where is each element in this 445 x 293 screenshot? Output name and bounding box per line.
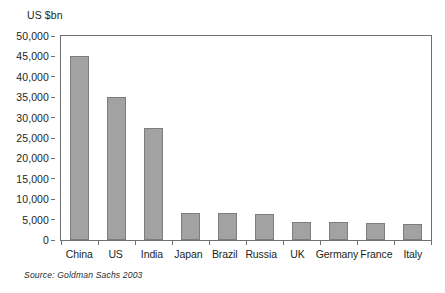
bar-france[interactable] <box>366 223 385 240</box>
y-axis-tick: 40,000 <box>0 71 60 83</box>
y-axis-tick-mark <box>51 36 55 37</box>
x-axis-label-china: China <box>61 247 97 263</box>
y-axis-tick-label: 0 <box>43 234 49 246</box>
bar-russia[interactable] <box>255 214 274 240</box>
y-axis-tick: 35,000 <box>0 91 60 103</box>
y-axis-tick: 50,000 <box>0 30 60 42</box>
y-axis-tick-mark <box>51 138 55 139</box>
x-axis-label-france: France <box>358 247 394 263</box>
bar-italy[interactable] <box>403 224 422 240</box>
x-axis-category-labels: ChinaUSIndiaJapanBrazilRussiaUKGermanyFr… <box>61 247 431 263</box>
y-axis-tick: 0 <box>0 234 60 246</box>
bar-us[interactable] <box>107 97 126 240</box>
bar-slot <box>394 36 431 240</box>
y-axis-tick-mark <box>51 56 55 57</box>
x-axis-label-japan: Japan <box>170 247 206 263</box>
bar-japan[interactable] <box>181 213 200 240</box>
x-axis-tick-mark <box>98 241 99 245</box>
y-axis-tick: 10,000 <box>0 193 60 205</box>
x-axis-tick-mark <box>61 241 62 245</box>
source-note: Source: Goldman Sachs 2003 <box>24 270 143 281</box>
y-axis-tick-label: 40,000 <box>16 71 49 83</box>
y-axis-tick-mark <box>51 219 55 220</box>
y-axis-tick-label: 45,000 <box>16 50 49 62</box>
x-axis-label-india: India <box>134 247 170 263</box>
bar-slot <box>357 36 394 240</box>
y-axis-tick-mark <box>51 97 55 98</box>
bar-slot <box>98 36 135 240</box>
x-axis-tick-mark <box>209 241 210 245</box>
y-axis-tick-mark <box>51 76 55 77</box>
bar-germany[interactable] <box>329 222 348 240</box>
x-axis-tick-mark <box>135 241 136 245</box>
y-axis-tick: 15,000 <box>0 173 60 185</box>
y-axis-tick-mark <box>51 178 55 179</box>
y-axis-tick-label: 50,000 <box>16 30 49 42</box>
bar-india[interactable] <box>144 128 163 240</box>
y-axis-tick-mark <box>51 199 55 200</box>
x-axis-label-russia: Russia <box>243 247 279 263</box>
bar-slot <box>135 36 172 240</box>
x-axis-tick-mark <box>246 241 247 245</box>
x-axis-ticks <box>61 241 431 246</box>
y-axis-tick-label: 30,000 <box>16 112 49 124</box>
x-axis-tick-mark <box>172 241 173 245</box>
bar-slot <box>246 36 283 240</box>
bar-china[interactable] <box>70 56 89 240</box>
x-axis-tick-mark <box>320 241 321 245</box>
bar-slot <box>209 36 246 240</box>
x-axis-label-us: US <box>97 247 133 263</box>
y-axis: 50,00045,00040,00035,00030,00025,00020,0… <box>0 35 60 241</box>
x-axis-label-germany: Germany <box>316 247 358 263</box>
y-axis-tick-mark <box>51 117 55 118</box>
bar-uk[interactable] <box>292 222 311 240</box>
y-axis-tick: 20,000 <box>0 152 60 164</box>
bar-slot <box>172 36 209 240</box>
y-axis-tick-label: 20,000 <box>16 152 49 164</box>
bar-series <box>61 36 431 240</box>
y-axis-tick-label: 15,000 <box>16 173 49 185</box>
y-axis-tick: 45,000 <box>0 50 60 62</box>
y-axis-tick-label: 25,000 <box>16 132 49 144</box>
x-axis-tick-mark <box>283 241 284 245</box>
y-axis-unit-label: US $bn <box>27 9 63 21</box>
y-axis-tick: 25,000 <box>0 132 60 144</box>
y-axis-tick-mark <box>51 240 55 241</box>
x-axis-label-italy: Italy <box>395 247 431 263</box>
bar-slot <box>283 36 320 240</box>
y-axis-tick-label: 35,000 <box>16 91 49 103</box>
x-axis-tick-mark <box>431 241 432 245</box>
y-axis-tick-label: 10,000 <box>16 193 49 205</box>
bar-slot <box>61 36 98 240</box>
y-axis-tick: 5,000 <box>0 214 60 226</box>
x-axis-tick-mark <box>394 241 395 245</box>
y-axis-tick-mark <box>51 158 55 159</box>
bar-brazil[interactable] <box>218 213 237 240</box>
y-axis-tick: 30,000 <box>0 112 60 124</box>
x-axis-tick-mark <box>357 241 358 245</box>
x-axis-label-uk: UK <box>279 247 315 263</box>
x-axis-label-brazil: Brazil <box>207 247 243 263</box>
y-axis-tick-label: 5,000 <box>22 214 49 226</box>
bar-slot <box>320 36 357 240</box>
